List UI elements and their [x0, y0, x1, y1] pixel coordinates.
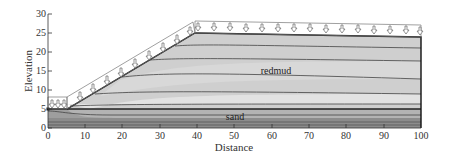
x-tick-90: 90: [379, 130, 389, 141]
x-axis-title: Distance: [215, 141, 254, 153]
y-axis-title: Elevation: [22, 49, 34, 92]
y-tick-10: 10: [36, 84, 46, 95]
x-tick-labels: 0 10 20 30 40 50 60 70 80 90 100: [46, 130, 429, 141]
slope-diagram: 0 5 10 15 20 25 30 0 10 20 30 40 50 60 7…: [0, 0, 449, 161]
x-tick-0: 0: [46, 130, 51, 141]
y-tick-20: 20: [36, 46, 46, 57]
y-tick-15: 15: [36, 65, 46, 76]
y-tick-labels: 0 5 10 15 20 25 30: [36, 8, 46, 133]
x-tick-20: 20: [117, 130, 127, 141]
y-tick-25: 25: [36, 27, 46, 38]
x-tick-60: 60: [267, 130, 277, 141]
x-tick-100: 100: [414, 130, 429, 141]
y-tick-30: 30: [36, 8, 46, 19]
x-tick-70: 70: [304, 130, 314, 141]
x-tick-10: 10: [80, 130, 90, 141]
x-tick-80: 80: [341, 130, 351, 141]
x-tick-40: 40: [192, 130, 202, 141]
x-tick-50: 50: [229, 130, 239, 141]
sand-label: sand: [226, 111, 244, 122]
x-tick-30: 30: [155, 130, 165, 141]
y-tick-5: 5: [41, 103, 46, 114]
redmud-label: redmud: [261, 65, 292, 76]
